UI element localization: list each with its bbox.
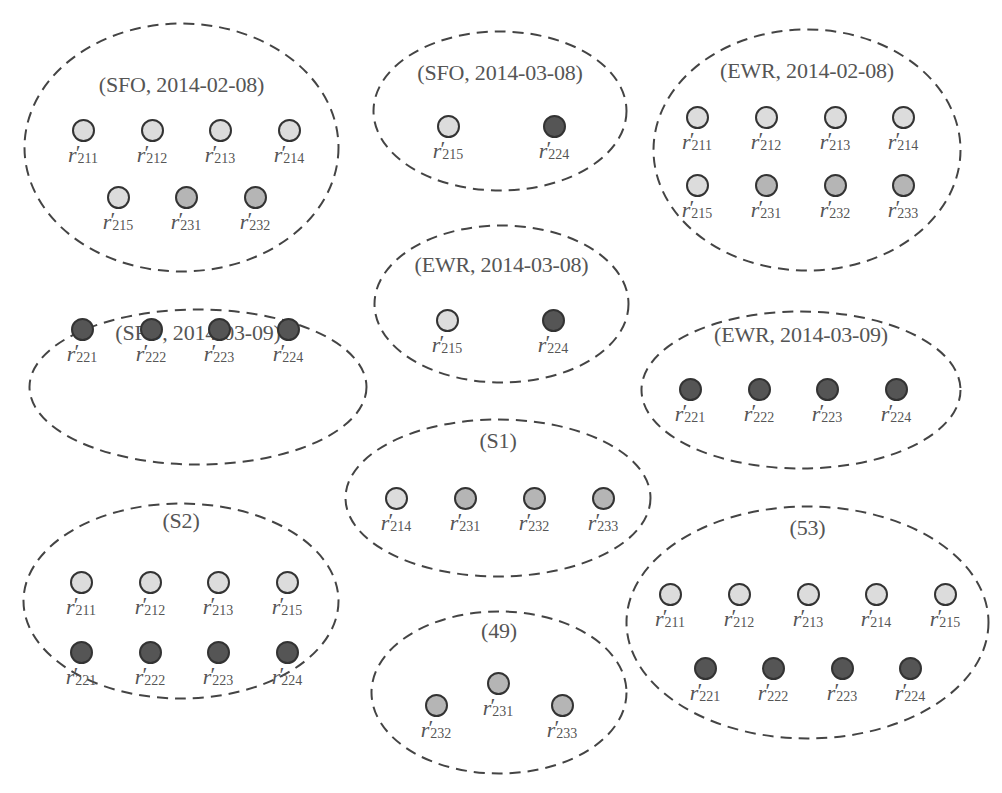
node-label: r′224 (257, 664, 317, 690)
node-circle (659, 583, 682, 606)
node-label: r′224 (258, 341, 318, 367)
node-label: r′233 (873, 197, 933, 223)
node-circle (276, 571, 299, 594)
node-label: r′233 (532, 717, 592, 743)
cluster-sfo-2014-03-09: (SFO, 2014-03-09)r′221r′222r′223r′224 (28, 308, 368, 466)
node-circle (277, 318, 300, 341)
cluster-sfo-2014-02-08: (SFO, 2014-02-08)r′211r′212r′213r′214r′2… (23, 22, 340, 273)
cluster-diagram: (SFO, 2014-02-08)r′211r′212r′213r′214r′2… (0, 0, 1002, 793)
cluster-title: (S2) (22, 508, 340, 534)
cluster-title: (53) (625, 515, 990, 541)
node-label: r′212 (122, 142, 182, 168)
cluster-title: (S1) (344, 428, 652, 454)
node-label: r′212 (120, 594, 180, 620)
node-circle (278, 119, 301, 142)
node-circle (70, 571, 93, 594)
node-circle (523, 487, 546, 510)
cluster-s1: (S1)r′214r′231r′232r′233 (344, 418, 652, 578)
node-label: r′232 (805, 197, 865, 223)
node-circle (175, 186, 198, 209)
cluster-title: (EWR, 2014-02-08) (652, 58, 962, 84)
node-label: r′215 (257, 594, 317, 620)
cluster-s2: (S2)r′211r′212r′213r′215r′221r′222r′223r… (22, 502, 340, 700)
node-label: r′211 (640, 606, 700, 632)
node-label: r′231 (468, 695, 528, 721)
node-label: r′232 (225, 209, 285, 235)
node-label: r′211 (53, 142, 113, 168)
node-circle (72, 119, 95, 142)
node-circle (207, 571, 230, 594)
node-label: r′214 (259, 142, 319, 168)
node-label: r′232 (504, 510, 564, 536)
cluster-ewr-2014-03-08: (EWR, 2014-03-08)r′215r′224 (373, 224, 630, 384)
node-label: r′214 (846, 606, 906, 632)
node-circle (824, 174, 847, 197)
node-circle (892, 174, 915, 197)
node-label: r′211 (667, 129, 727, 155)
cluster-title: (SFO, 2014-03-08) (372, 60, 628, 86)
node-label: r′224 (524, 138, 584, 164)
node-label: r′213 (805, 129, 865, 155)
cluster-cluster-53: (53)r′211r′212r′213r′214r′215r′221r′222r… (625, 505, 990, 740)
cluster-ewr-2014-03-09: (EWR, 2014-03-09)r′221r′222r′223r′224 (640, 310, 962, 470)
cluster-title: (49) (370, 618, 628, 644)
cluster-cluster-49: (49)r′232r′231r′233 (370, 610, 628, 775)
node-circle (542, 309, 565, 332)
node-circle (748, 378, 771, 401)
node-label: r′232 (406, 717, 466, 743)
node-circle (728, 583, 751, 606)
node-circle (824, 106, 847, 129)
node-circle (209, 119, 232, 142)
node-circle (107, 186, 130, 209)
node-label: r′224 (523, 332, 583, 358)
cluster-title: (EWR, 2014-03-08) (373, 252, 630, 278)
node-circle (892, 106, 915, 129)
node-circle (551, 694, 574, 717)
node-circle (899, 657, 922, 680)
node-circle (885, 378, 908, 401)
node-label: r′224 (866, 401, 926, 427)
node-circle (694, 657, 717, 680)
node-label: r′215 (915, 606, 975, 632)
node-label: r′224 (880, 680, 940, 706)
node-circle (208, 318, 231, 341)
node-label: r′222 (120, 664, 180, 690)
node-label: r′223 (188, 664, 248, 690)
node-label: r′222 (121, 341, 181, 367)
cluster-title: (EWR, 2014-03-09) (640, 322, 962, 348)
node-circle (934, 583, 957, 606)
node-circle (543, 115, 566, 138)
node-circle (139, 641, 162, 664)
node-label: r′215 (88, 209, 148, 235)
node-label: r′221 (675, 680, 735, 706)
node-label: r′215 (417, 332, 477, 358)
node-label: r′223 (797, 401, 857, 427)
node-circle (141, 119, 164, 142)
node-circle (454, 487, 477, 510)
node-circle (679, 378, 702, 401)
node-label: r′213 (190, 142, 250, 168)
node-label: r′223 (189, 341, 249, 367)
node-circle (865, 583, 888, 606)
node-circle (686, 174, 709, 197)
node-label: r′233 (573, 510, 633, 536)
node-circle (244, 186, 267, 209)
node-label: r′214 (873, 129, 933, 155)
node-circle (207, 641, 230, 664)
node-circle (425, 694, 448, 717)
node-label: r′215 (418, 138, 478, 164)
node-label: r′231 (736, 197, 796, 223)
node-label: r′213 (188, 594, 248, 620)
node-label: r′221 (52, 341, 112, 367)
node-circle (139, 571, 162, 594)
dashed-ellipse (372, 30, 628, 192)
dashed-ellipse (373, 224, 630, 384)
node-circle (831, 657, 854, 680)
cluster-ewr-2014-02-08: (EWR, 2014-02-08)r′211r′212r′213r′214r′2… (652, 28, 962, 272)
node-label: r′214 (366, 510, 426, 536)
node-circle (437, 115, 460, 138)
node-circle (762, 657, 785, 680)
node-label: r′223 (812, 680, 872, 706)
node-label: r′213 (778, 606, 838, 632)
node-label: r′231 (156, 209, 216, 235)
